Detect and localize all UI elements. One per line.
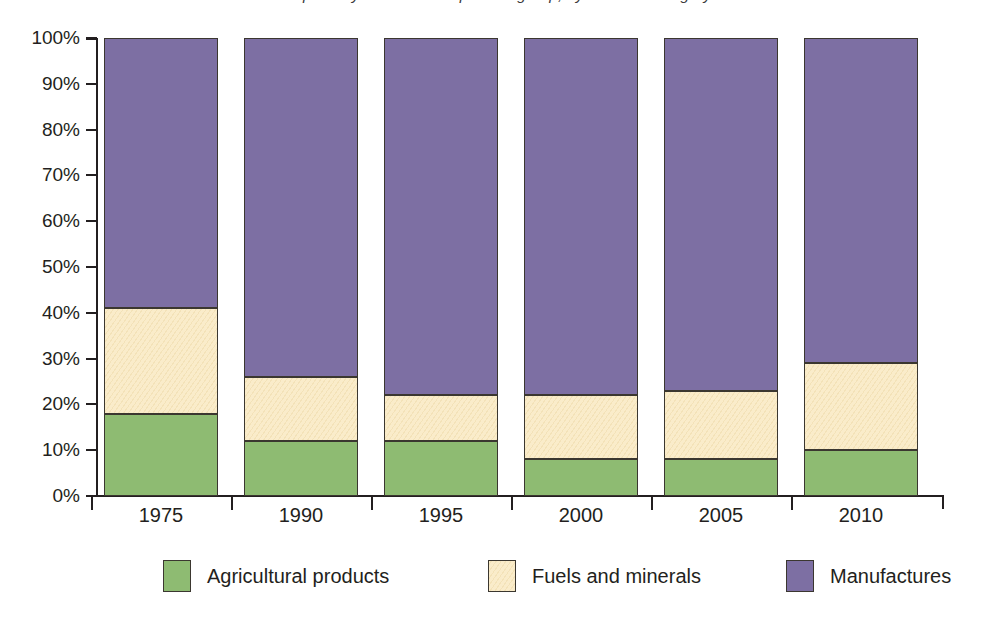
bar-stack [104, 38, 218, 496]
bar-stack [804, 38, 918, 496]
x-axis-tick [651, 497, 653, 510]
bar-segment [244, 441, 358, 496]
y-axis-tick [86, 312, 97, 314]
legend-item[interactable]: Manufactures [786, 556, 951, 596]
chart-title-clipped: Exports by merchandise product group, by… [0, 0, 996, 8]
bar-segment [384, 395, 498, 441]
bar-segment [104, 38, 218, 308]
y-axis-tick [86, 266, 97, 268]
y-axis-tick-label: 100% [0, 28, 80, 47]
y-axis-tick-label: 20% [0, 394, 80, 413]
bar-segment [664, 391, 778, 460]
x-axis-right-cap [942, 495, 944, 509]
legend-item[interactable]: Agricultural products [163, 556, 389, 596]
x-axis-tick [231, 497, 233, 510]
chart-legend: Agricultural productsFuels and mineralsM… [96, 556, 944, 600]
plot-area [104, 38, 944, 496]
bar-segment [524, 38, 638, 395]
bar-stack [244, 38, 358, 496]
y-axis-tick-label: 80% [0, 120, 80, 139]
y-axis-tick-label: 0% [0, 486, 80, 505]
y-axis-tick-label: 10% [0, 440, 80, 459]
y-axis-tick [86, 358, 97, 360]
y-axis-tick [86, 174, 97, 176]
bar-segment [804, 363, 918, 450]
x-axis-tick-label: 1995 [381, 505, 501, 525]
bar-segment [524, 459, 638, 496]
legend-swatch [163, 560, 191, 592]
bar-stack [524, 38, 638, 496]
legend-label: Fuels and minerals [532, 566, 701, 586]
bar-segment [244, 38, 358, 377]
bar-segment [804, 450, 918, 496]
y-axis-tick-label: 70% [0, 165, 80, 184]
y-axis-tick [86, 129, 97, 131]
bar-stack [664, 38, 778, 496]
bar-segment [104, 414, 218, 496]
chart-title: Exports by merchandise product group, by… [0, 0, 996, 4]
legend-swatch [488, 560, 516, 592]
bar-segment [804, 38, 918, 363]
legend-label: Manufactures [830, 566, 951, 586]
legend-item[interactable]: Fuels and minerals [488, 556, 701, 596]
y-axis-tick-label: 90% [0, 74, 80, 93]
legend-swatch [786, 560, 814, 592]
x-axis-tick [511, 497, 513, 510]
x-axis-tick [791, 497, 793, 510]
bar-segment [384, 441, 498, 496]
bar-segment [104, 308, 218, 413]
x-axis-tick-label: 1990 [241, 505, 361, 525]
bar-segment [384, 38, 498, 395]
bar-stack [384, 38, 498, 496]
x-axis-tick-label: 2000 [521, 505, 641, 525]
x-axis-tick-label: 2005 [661, 505, 781, 525]
y-axis-tick [86, 449, 97, 451]
bar-segment [524, 395, 638, 459]
bar-segment [664, 459, 778, 496]
x-axis-tick-label: 2010 [801, 505, 921, 525]
y-axis-tick [86, 83, 97, 85]
y-axis-tick [86, 220, 97, 222]
bar-segment [664, 38, 778, 391]
y-axis-tick-label: 50% [0, 257, 80, 276]
x-axis-tick [371, 497, 373, 510]
y-axis-tick [86, 403, 97, 405]
stacked-bar-chart-figure: Exports by merchandise product group, by… [0, 0, 996, 636]
x-axis-tick-label: 1975 [101, 505, 221, 525]
legend-label: Agricultural products [207, 566, 389, 586]
x-axis-tick [91, 497, 93, 510]
bar-segment [244, 377, 358, 441]
y-axis-tick-label: 30% [0, 349, 80, 368]
y-axis-tick-label: 60% [0, 211, 80, 230]
y-axis-tick [86, 37, 97, 39]
y-axis-tick-label: 40% [0, 303, 80, 322]
